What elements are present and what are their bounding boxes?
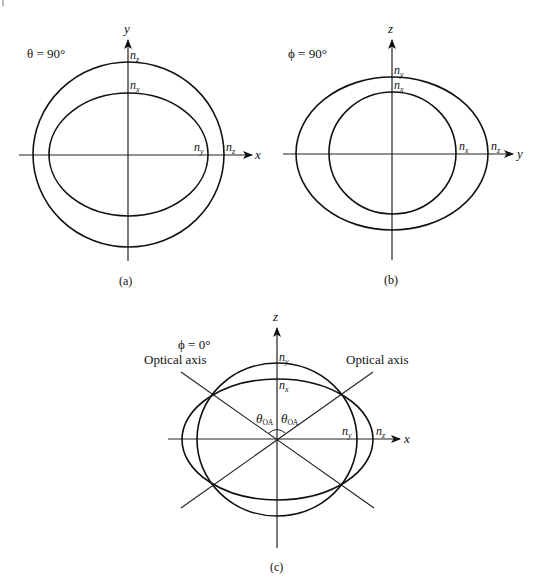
label-top-inner: nx (130, 78, 140, 94)
label-top-outer: nz (130, 48, 140, 64)
label-top-inner: nx (279, 378, 289, 394)
condition-label: ϕ = 90° (288, 46, 327, 61)
optical-axis-label-right: Optical axis (346, 352, 408, 367)
panel-caption: (a) (119, 274, 132, 288)
label-right-outer: nz (226, 140, 236, 156)
label-right-inner: ny (342, 424, 352, 440)
label-top-outer: ny (394, 63, 404, 79)
axis-label-z: z (387, 21, 393, 36)
axis-label-y: y (122, 21, 130, 36)
label-top-inner: nx (394, 78, 404, 94)
axis-label-x: x (403, 431, 410, 446)
condition-label: ϕ = 0° (178, 337, 210, 352)
axis-label-x: x (254, 147, 261, 162)
label-right-inner: ny (194, 140, 204, 156)
index-ellipse-figure: x y θ = 90° nz nx ny nz (a) y z ϕ = 90° … (0, 0, 537, 577)
label-top-outer: ny (279, 350, 289, 366)
axis-label-y: y (515, 146, 523, 161)
panel-caption: (b) (384, 273, 398, 287)
panel-b: y z ϕ = 90° ny nx nx nz (b) (283, 21, 523, 287)
condition-label: θ = 90° (27, 46, 65, 61)
optical-axis-label-left: Optical axis (144, 352, 206, 367)
theta-oa-label-right: θOA (281, 411, 299, 427)
label-right-inner: nx (459, 139, 469, 155)
panel-a: x y θ = 90° nz nx ny nz (a) (19, 21, 261, 288)
label-right-outer: nz (376, 424, 386, 440)
panel-c: x z ϕ = 0° Optical axis Optical axis ny … (144, 309, 410, 574)
theta-oa-label-left: θOA (256, 411, 274, 427)
panel-caption: (c) (270, 560, 283, 574)
label-right-outer: nz (491, 139, 501, 155)
axis-label-z: z (272, 309, 278, 324)
